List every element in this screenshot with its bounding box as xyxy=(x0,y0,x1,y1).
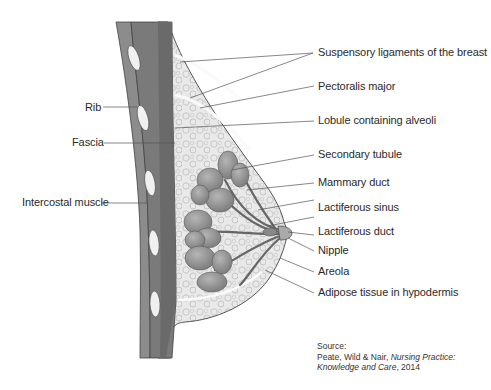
label-nipple: Nipple xyxy=(318,244,349,257)
source-authors: Peate, Wild & Nair, xyxy=(317,352,391,362)
source-heading: Source: xyxy=(317,341,491,352)
source-year: , 2014 xyxy=(396,362,420,372)
label-rib: Rib xyxy=(85,101,101,114)
label-secondary-tubule: Secondary tubule xyxy=(318,148,402,161)
label-intercostal-muscle: Intercostal muscle xyxy=(22,196,109,209)
label-mammary-duct: Mammary duct xyxy=(318,176,390,189)
label-areola: Areola xyxy=(318,265,349,278)
label-fascia: Fascia xyxy=(72,136,104,149)
label-lactiferous-duct: Lactiferous duct xyxy=(318,225,394,238)
label-suspensory-ligaments: Suspensory ligaments of the breast xyxy=(318,46,487,59)
label-lactiferous-sinus: Lactiferous sinus xyxy=(318,201,399,214)
label-pectoralis-major: Pectoralis major xyxy=(318,80,395,93)
chest-wall xyxy=(116,22,176,358)
source-citation: Source: Peate, Wild & Nair, Nursing Prac… xyxy=(317,341,491,373)
nipple xyxy=(278,226,292,240)
label-adipose-tissue: Adipose tissue in hypodermis xyxy=(318,286,458,299)
label-lobule: Lobule containing alveoli xyxy=(318,114,436,127)
